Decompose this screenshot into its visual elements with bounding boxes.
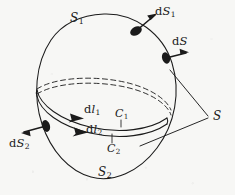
- ds1-normal-marker: [129, 13, 157, 37]
- label-ds2: dS2: [9, 138, 29, 150]
- hidden-contour-dashed: [37, 78, 171, 115]
- figure-container: S1 S2 S dS1 dS dS2 dl1 dl2 C1 C2: [0, 0, 235, 195]
- label-s2: S2: [98, 166, 112, 180]
- surface-diagram-svg: [0, 0, 235, 195]
- ds2-normal-marker: [21, 119, 51, 136]
- ds-normal-marker: [160, 49, 189, 65]
- label-s1: S1: [70, 12, 84, 26]
- label-c2: C2: [107, 143, 120, 155]
- label-dl1: dl1: [84, 104, 100, 116]
- label-ds: dS: [172, 36, 187, 48]
- label-c1: C1: [115, 108, 128, 120]
- label-s: S: [213, 110, 221, 122]
- label-dl2: dl2: [86, 124, 102, 136]
- contour-label-leaders: [112, 120, 121, 143]
- dl1-arrowhead: [69, 114, 84, 123]
- label-ds1: dS1: [155, 6, 175, 18]
